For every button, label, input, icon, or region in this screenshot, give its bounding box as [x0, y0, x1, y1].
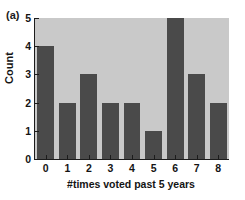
- y-tick-mark: [35, 18, 39, 19]
- x-tick-label: 4: [129, 163, 135, 174]
- bar: [188, 74, 205, 159]
- y-tick-label: 1: [25, 126, 31, 137]
- x-tick-mark: [132, 155, 133, 159]
- y-tick-label: 2: [25, 97, 31, 108]
- bar: [80, 74, 97, 159]
- x-tick-mark: [197, 155, 198, 159]
- x-tick-label: 0: [43, 163, 49, 174]
- x-tick-label: 1: [64, 163, 70, 174]
- x-tick-label: 8: [215, 163, 221, 174]
- y-tick-mark: [35, 131, 39, 132]
- x-tick-mark: [154, 155, 155, 159]
- y-axis-title: Count: [3, 38, 15, 98]
- y-tick-label: 0: [25, 154, 31, 165]
- plot-area: 012345012345678: [34, 18, 229, 160]
- y-tick-label: 5: [25, 13, 31, 24]
- y-tick-mark: [35, 159, 39, 160]
- y-tick-label: 4: [25, 41, 31, 52]
- x-tick-mark: [89, 155, 90, 159]
- figure-panel-a: (a) Count 012345012345678 #times voted p…: [0, 0, 245, 200]
- x-tick-label: 7: [194, 163, 200, 174]
- y-tick-label: 3: [25, 69, 31, 80]
- x-tick-label: 5: [151, 163, 157, 174]
- x-tick-mark: [110, 155, 111, 159]
- bar-series: [35, 18, 229, 159]
- bar: [167, 18, 184, 159]
- x-tick-mark: [67, 155, 68, 159]
- bar: [210, 103, 227, 159]
- x-tick-mark: [175, 155, 176, 159]
- x-tick-label: 2: [86, 163, 92, 174]
- panel-label: (a): [6, 9, 19, 21]
- x-tick-label: 6: [172, 163, 178, 174]
- x-tick-mark: [46, 155, 47, 159]
- bar: [124, 103, 141, 159]
- y-tick-mark: [35, 103, 39, 104]
- x-tick-label: 3: [108, 163, 114, 174]
- bar: [59, 103, 76, 159]
- y-tick-mark: [35, 74, 39, 75]
- x-axis-title: #times voted past 5 years: [34, 178, 228, 190]
- x-tick-mark: [218, 155, 219, 159]
- bar: [102, 103, 119, 159]
- y-tick-mark: [35, 46, 39, 47]
- bar: [37, 46, 54, 159]
